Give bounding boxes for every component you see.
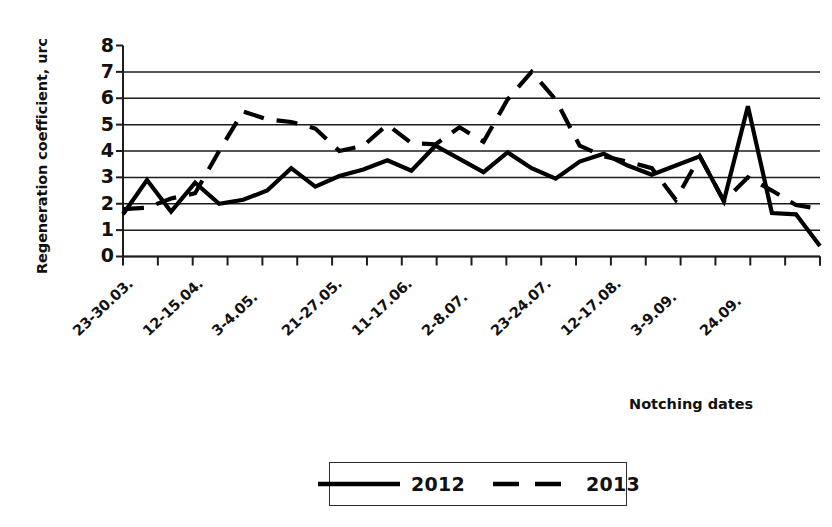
series-line-2012	[123, 106, 820, 246]
plot-area	[0, 0, 832, 527]
x-axis-title: Notching dates	[629, 396, 753, 412]
series-line-2013	[123, 72, 820, 209]
legend-entry-2013: 2013	[491, 475, 640, 494]
legend-entry-2012: 2012	[316, 475, 465, 494]
chart-figure: Regeneration coefficient, urc 8 7 6 5 4 …	[0, 0, 832, 527]
chart-legend: 2012 2013	[329, 462, 627, 506]
legend-key-dashed-icon	[491, 478, 577, 490]
legend-label-2012: 2012	[411, 475, 465, 494]
legend-key-solid-icon	[316, 478, 402, 490]
legend-label-2013: 2013	[586, 475, 640, 494]
x-axis-ticks	[123, 257, 820, 266]
